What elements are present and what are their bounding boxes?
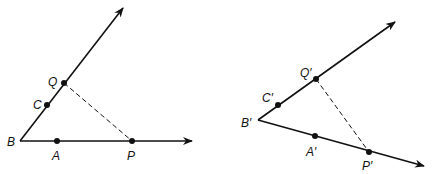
dashed-segment xyxy=(316,79,369,152)
geometry-diagram: CQAPB C′Q′A′P′B′ xyxy=(0,0,436,174)
point-label: P xyxy=(127,149,135,163)
vertex-label: B xyxy=(7,135,15,149)
point-label: Q′ xyxy=(300,66,312,80)
point-label: A′ xyxy=(305,145,317,159)
point-label: A xyxy=(51,149,60,163)
original-angle-figure: CQAPB xyxy=(7,8,192,163)
point-c-prime xyxy=(275,102,281,108)
point-p xyxy=(129,138,135,144)
point-p-prime xyxy=(366,149,372,155)
point-q xyxy=(61,80,67,86)
point-a xyxy=(54,138,60,144)
point-c xyxy=(44,102,50,108)
point-label: C′ xyxy=(262,91,274,105)
point-label: C xyxy=(33,98,42,112)
point-q-prime xyxy=(313,76,319,82)
point-label: P′ xyxy=(362,159,373,173)
ray-lower xyxy=(258,120,424,166)
point-label: Q xyxy=(48,75,57,89)
transformed-angle-figure: C′Q′A′P′B′ xyxy=(241,22,424,173)
vertex-label: B′ xyxy=(241,116,252,130)
dashed-segment xyxy=(64,83,132,141)
point-a-prime xyxy=(312,133,318,139)
ray-upper xyxy=(20,8,123,141)
